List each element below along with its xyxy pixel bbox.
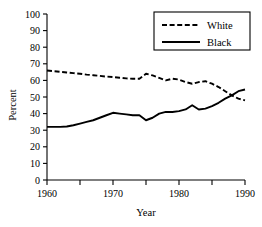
y-tick-label: 80 xyxy=(30,42,40,53)
x-axis-ticks: 1960197019801990 xyxy=(37,180,255,199)
legend-label-white: White xyxy=(207,20,233,31)
x-tick-label: 1960 xyxy=(37,188,57,199)
y-tick-label: 30 xyxy=(30,125,40,136)
x-axis-title: Year xyxy=(136,207,156,218)
legend-label-black: Black xyxy=(207,37,232,48)
y-tick-label: 0 xyxy=(35,175,40,186)
chart-legend: WhiteBlack xyxy=(154,12,250,50)
y-tick-label: 20 xyxy=(30,141,40,152)
y-tick-label: 90 xyxy=(30,25,40,36)
x-tick-label: 1990 xyxy=(235,188,255,199)
y-axis-title: Percent xyxy=(7,89,18,121)
data-series xyxy=(47,70,245,126)
x-tick-label: 1980 xyxy=(169,188,189,199)
y-axis-ticks: 0102030405060708090100 xyxy=(25,9,47,186)
y-tick-label: 50 xyxy=(30,92,40,103)
y-tick-label: 60 xyxy=(30,75,40,86)
series-line-white xyxy=(47,70,245,100)
x-tick-label: 1970 xyxy=(103,188,123,199)
series-line-black xyxy=(47,90,245,127)
y-tick-label: 40 xyxy=(30,108,40,119)
line-chart: 0102030405060708090100 1960197019801990 … xyxy=(0,0,262,227)
chart-canvas: 0102030405060708090100 1960197019801990 … xyxy=(0,0,262,227)
legend-box xyxy=(154,12,250,50)
y-tick-label: 70 xyxy=(30,58,40,69)
y-tick-label: 100 xyxy=(25,9,40,20)
y-tick-label: 10 xyxy=(30,158,40,169)
